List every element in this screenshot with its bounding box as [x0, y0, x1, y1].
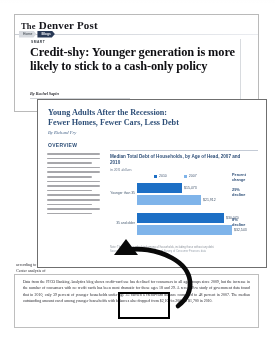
legend-label-2007: 2007	[189, 174, 197, 178]
bar-2007-older: $32,543	[137, 225, 232, 235]
breadcrumb: Home Blogs	[19, 31, 55, 38]
percent-change-header: Percent change	[232, 173, 258, 182]
breadcrumb-item-home[interactable]: Home	[19, 31, 36, 38]
scanned-article-page: The Denver Post Home Blogs SMART Credit-…	[0, 0, 275, 339]
bar-2010-younger: $15,473	[137, 183, 182, 193]
percent-change-header-line1: Percent	[232, 173, 246, 177]
bar-pair-older: $30,070 $32,543	[137, 213, 232, 238]
section-kicker: SMART	[31, 40, 45, 44]
percent-change-older-word: decline	[232, 222, 245, 227]
newspaper-header-card: The Denver Post Home Blogs SMART Credit-…	[14, 14, 259, 112]
bar-value-2007-older: $32,543	[234, 228, 247, 232]
bar-pair-younger: $15,473 $21,912	[137, 183, 232, 208]
bar-group-35-and-older: 35 and older $30,070 $32,543 8% decline	[110, 213, 258, 238]
percent-change-younger-word: decline	[232, 192, 245, 197]
category-label-younger: Younger than 35	[110, 191, 135, 195]
legend-label-2010: 2010	[159, 174, 167, 178]
report-byline: By Richard Fry	[48, 130, 76, 135]
chart-top-rule	[110, 150, 258, 151]
breadcrumb-item-blogs[interactable]: Blogs	[37, 31, 54, 38]
legend-swatch-2010	[154, 175, 157, 178]
percent-change-older: 8% decline	[232, 218, 258, 227]
chart-legend: 2010 2007	[154, 174, 197, 178]
bar-group-younger-than-35: Younger than 35 $15,473 $21,912 29% decl…	[110, 183, 258, 208]
percent-change-younger: 29% decline	[232, 188, 258, 197]
article-byline: By Rachel Sapin	[30, 91, 59, 96]
masthead-name: Denver Post	[39, 19, 98, 31]
report-title: Young Adults After the Recession: Fewer …	[48, 108, 188, 127]
column-divider	[240, 39, 241, 105]
legend-item-2007: 2007	[184, 174, 197, 178]
bar-2007-younger: $21,912	[137, 195, 201, 205]
bar-value-2010-younger: $15,473	[184, 186, 197, 190]
legend-swatch-2007	[184, 175, 187, 178]
bar-2010-older: $30,070	[137, 213, 224, 223]
chart-title: Median Total Debt of Households, by Age …	[110, 154, 250, 166]
chart-plot-area: Younger than 35 $15,473 $21,912 29% decl…	[110, 182, 258, 244]
overview-heading: OVERVIEW	[48, 142, 77, 148]
overview-body-text	[47, 153, 105, 217]
legend-item-2010: 2010	[154, 174, 167, 178]
bar-value-2007-younger: $21,912	[203, 198, 216, 202]
page-title: Credit-shy: Younger generation is more l…	[30, 45, 242, 73]
masthead-the: The	[21, 21, 36, 31]
masthead-logo: The Denver Post	[21, 19, 98, 31]
category-label-older: 35 and older	[110, 221, 135, 225]
chart-subtitle: in 2011 dollars	[110, 168, 132, 172]
percent-change-header-line2: change	[232, 178, 245, 182]
curved-arrow-annotation	[100, 236, 210, 310]
